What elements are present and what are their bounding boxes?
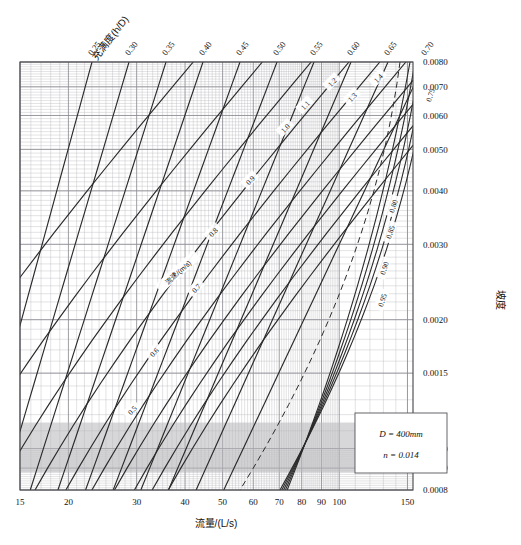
x-tick-60: 60 [249, 497, 259, 507]
y-tick-0.0060: 0.0060 [423, 111, 448, 121]
note-roughness: n = 0.014 [383, 450, 419, 460]
y-tick-0.0080: 0.0080 [423, 57, 448, 67]
x-tick-100: 100 [332, 497, 346, 507]
nomograph-svg: 0.50.60.70.80.91.01.11.21.31.40.750.800.… [0, 0, 521, 545]
x-tick-70: 70 [275, 497, 285, 507]
x-tick-15: 15 [16, 497, 26, 507]
hydraulic-nomograph-chart: 0.50.60.70.80.91.01.11.21.31.40.750.800.… [0, 0, 521, 545]
x-tick-80: 80 [297, 497, 307, 507]
y-tick-0.0030: 0.0030 [423, 240, 448, 250]
x-tick-20: 20 [64, 497, 74, 507]
y-tick-0.0040: 0.0040 [423, 186, 448, 196]
x-tick-150: 150 [401, 497, 415, 507]
y-tick-0.0015: 0.0015 [423, 368, 448, 378]
x-axis-title: 流量/(L/s) [195, 517, 238, 529]
y-axis-title: 坡度 [495, 290, 507, 310]
x-tick-90: 90 [317, 497, 327, 507]
shaded-band [20, 423, 413, 473]
x-tick-50: 50 [218, 497, 228, 507]
y-tick-0.0070: 0.0070 [423, 82, 448, 92]
x-tick-40: 40 [181, 497, 191, 507]
x-tick-30: 30 [132, 497, 142, 507]
note-box-frame [355, 413, 447, 473]
y-tick-0.0008: 0.0008 [423, 485, 448, 495]
y-tick-0.0050: 0.0050 [423, 145, 448, 155]
parameter-note-box: D = 400mm n = 0.014 [355, 413, 447, 473]
note-diameter: D = 400mm [378, 429, 423, 439]
y-tick-0.0020: 0.0020 [423, 315, 448, 325]
